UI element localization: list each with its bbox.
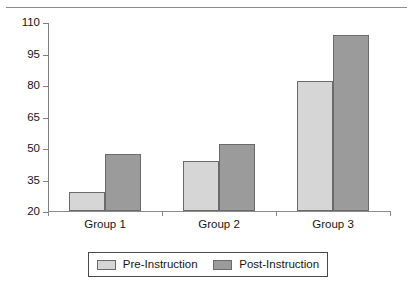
x-axis-label-group-1: Group 1 <box>84 219 126 231</box>
bar-group-1-pre-instruction <box>69 192 105 211</box>
legend-item-pre-instruction: Pre-Instruction <box>97 259 198 271</box>
bar-group-3-pre-instruction <box>297 81 333 211</box>
y-axis-tick-label: 65 <box>27 112 40 124</box>
y-axis-tick <box>43 118 48 119</box>
x-axis-tick <box>276 211 277 216</box>
y-axis-tick-label: 95 <box>27 49 40 61</box>
x-axis-tick <box>162 211 163 216</box>
y-axis-tick-label: 110 <box>22 17 40 29</box>
y-axis-tick <box>43 23 48 24</box>
plot-area: 203550658095110 Group 1Group 2Group 3 <box>48 23 390 212</box>
y-axis-tick-label: 20 <box>27 206 40 218</box>
legend-swatch-post-instruction <box>213 260 232 270</box>
bar-group-2-pre-instruction <box>183 161 219 211</box>
y-axis-tick-label: 80 <box>27 80 40 92</box>
x-axis-tick <box>390 211 391 216</box>
legend-item-post-instruction: Post-Instruction <box>213 259 319 271</box>
y-axis-tick <box>43 55 48 56</box>
top-divider <box>6 7 407 8</box>
bar-group-2-post-instruction <box>219 144 255 211</box>
y-axis-tick-label: 35 <box>27 175 40 187</box>
legend-label-pre-instruction: Pre-Instruction <box>123 259 198 271</box>
x-axis-tick <box>48 211 49 216</box>
y-axis-tick <box>43 149 48 150</box>
y-axis-tick-label: 50 <box>27 143 40 155</box>
x-axis-label-group-2: Group 2 <box>198 219 240 231</box>
legend-label-post-instruction: Post-Instruction <box>239 259 319 271</box>
y-axis-tick <box>43 86 48 87</box>
chart-legend: Pre-Instruction Post-Instruction <box>88 252 328 277</box>
y-axis-line <box>48 23 49 212</box>
legend-swatch-pre-instruction <box>97 260 116 270</box>
y-axis-tick <box>43 181 48 182</box>
bar-group-1-post-instruction <box>105 154 141 211</box>
x-axis-label-group-3: Group 3 <box>312 219 354 231</box>
x-axis-line <box>48 211 390 212</box>
bar-group-3-post-instruction <box>333 35 369 211</box>
bar-chart-figure: 203550658095110 Group 1Group 2Group 3 Pr… <box>0 0 413 292</box>
